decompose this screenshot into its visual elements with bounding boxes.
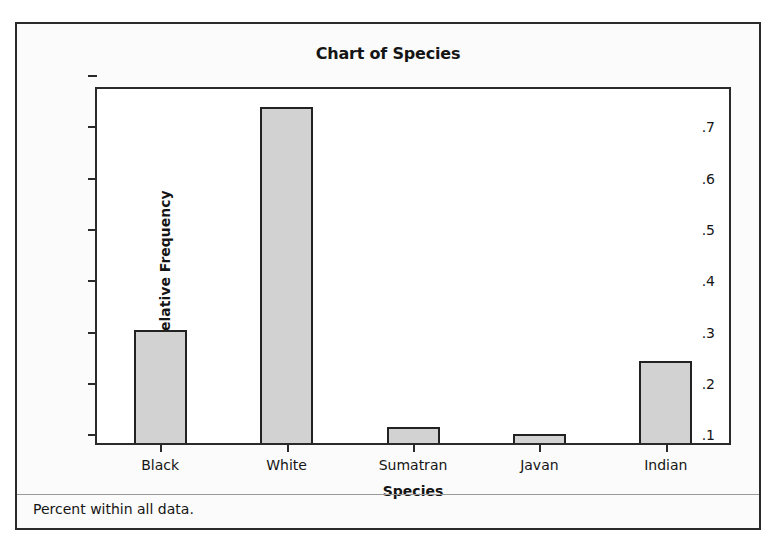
y-axis-tick bbox=[88, 126, 97, 128]
y-axis-tick bbox=[88, 75, 97, 77]
bar-white bbox=[260, 107, 313, 443]
page-title: Chart of Species bbox=[17, 44, 759, 63]
y-axis-tick bbox=[88, 178, 97, 180]
x-axis-tick-label: Sumatran bbox=[379, 457, 448, 473]
bar-black bbox=[134, 330, 187, 443]
bar-series bbox=[97, 89, 729, 443]
x-axis-tick-label: Indian bbox=[644, 457, 687, 473]
y-axis-tick bbox=[88, 280, 97, 282]
footnote-divider bbox=[17, 494, 759, 495]
x-axis-title: Species bbox=[97, 483, 729, 499]
footnote-text: Percent within all data. bbox=[33, 501, 194, 517]
x-axis-tick bbox=[160, 443, 162, 452]
figure-frame: Chart of Species Relative Frequency .1.2… bbox=[15, 22, 761, 530]
bar-javan bbox=[513, 434, 566, 443]
bar-indian bbox=[639, 361, 692, 443]
y-axis-tick bbox=[88, 434, 97, 436]
x-axis-tick bbox=[413, 443, 415, 452]
y-axis-tick bbox=[88, 229, 97, 231]
bar-sumatran bbox=[387, 427, 440, 443]
y-axis-tick bbox=[88, 332, 97, 334]
x-axis-tick-label: Javan bbox=[520, 457, 558, 473]
y-axis-tick bbox=[88, 383, 97, 385]
x-axis-tick bbox=[287, 443, 289, 452]
x-axis-tick bbox=[539, 443, 541, 452]
x-axis-tick-label: White bbox=[266, 457, 307, 473]
plot-area: Relative Frequency .1.2.3.4.5.6.7 BlackW… bbox=[95, 87, 731, 445]
x-axis-tick-label: Black bbox=[141, 457, 179, 473]
x-axis-tick bbox=[666, 443, 668, 452]
